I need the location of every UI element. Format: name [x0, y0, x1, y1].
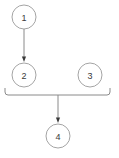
node-4[interactable]: 4 [46, 124, 70, 148]
node-2-label: 2 [21, 71, 26, 81]
arrowhead-icon [22, 57, 26, 63]
bracket-path [5, 88, 110, 95]
edge-bracket-to-4 [56, 95, 60, 123]
node-2[interactable]: 2 [12, 63, 36, 87]
arrowhead-icon [56, 118, 60, 124]
node-3-label: 3 [87, 71, 92, 81]
join-bracket [5, 88, 110, 95]
node-1-label: 1 [21, 13, 26, 23]
edge-1-to-2 [22, 29, 26, 62]
diagram-canvas: 1 2 3 4 [0, 0, 119, 158]
node-1[interactable]: 1 [12, 5, 36, 29]
node-3[interactable]: 3 [78, 63, 102, 87]
node-4-label: 4 [55, 132, 60, 142]
diagram-svg: 1 2 3 4 [0, 0, 119, 158]
